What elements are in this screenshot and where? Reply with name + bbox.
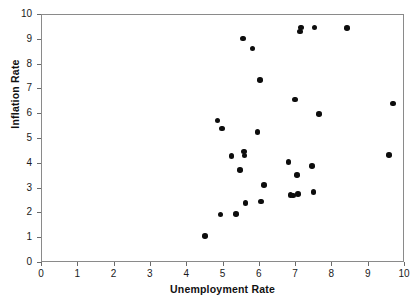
x-tick-mark xyxy=(77,262,78,266)
x-tick-mark xyxy=(114,262,115,266)
data-point xyxy=(255,129,261,135)
data-point xyxy=(386,152,392,158)
y-tick-label: 0 xyxy=(6,257,32,267)
data-point xyxy=(316,111,322,117)
data-point xyxy=(261,182,267,188)
x-tick-label: 5 xyxy=(208,268,238,280)
y-tick-label: 10 xyxy=(6,9,32,19)
x-tick-mark xyxy=(259,262,260,266)
x-tick-label: 2 xyxy=(99,268,129,280)
y-tick-mark xyxy=(37,163,41,164)
data-point xyxy=(237,167,243,173)
data-point xyxy=(240,36,246,42)
data-point xyxy=(233,211,239,217)
x-tick-label: 4 xyxy=(171,268,201,280)
scatter-chart-figure: 012345678910012345678910 Unemployment Ra… xyxy=(0,0,415,301)
x-tick-label: 1 xyxy=(62,268,92,280)
x-tick-mark xyxy=(186,262,187,266)
y-tick-label: 3 xyxy=(6,183,32,193)
x-tick-label: 8 xyxy=(316,268,346,280)
y-tick-mark xyxy=(37,88,41,89)
y-tick-mark xyxy=(37,262,41,263)
y-tick-mark xyxy=(37,188,41,189)
x-tick-mark xyxy=(295,262,296,266)
x-tick-label: 3 xyxy=(135,268,165,280)
data-point xyxy=(229,153,235,159)
data-point xyxy=(202,233,208,239)
data-point xyxy=(257,77,263,83)
x-tick-mark xyxy=(150,262,151,266)
x-tick-label: 0 xyxy=(26,268,56,280)
data-point xyxy=(295,191,301,197)
data-point xyxy=(309,163,315,169)
y-tick-label: 2 xyxy=(6,207,32,217)
y-tick-mark xyxy=(37,237,41,238)
y-axis-label: Inflation Rate xyxy=(9,34,21,154)
y-tick-mark xyxy=(37,138,41,139)
data-point xyxy=(243,200,249,206)
y-tick-label: 4 xyxy=(6,158,32,168)
x-tick-label: 7 xyxy=(280,268,310,280)
x-tick-mark xyxy=(404,262,405,266)
data-point xyxy=(258,199,264,205)
x-tick-mark xyxy=(368,262,369,266)
x-tick-label: 10 xyxy=(389,268,415,280)
x-tick-mark xyxy=(223,262,224,266)
data-point xyxy=(219,126,225,132)
y-tick-mark xyxy=(37,39,41,40)
x-axis-label: Unemployment Rate xyxy=(41,283,404,295)
x-tick-label: 9 xyxy=(353,268,383,280)
data-point xyxy=(344,25,350,31)
y-tick-mark xyxy=(37,113,41,114)
data-point xyxy=(294,172,300,178)
x-tick-mark xyxy=(41,262,42,266)
y-tick-mark xyxy=(37,14,41,15)
x-tick-mark xyxy=(331,262,332,266)
plot-area xyxy=(41,14,404,262)
y-tick-mark xyxy=(37,64,41,65)
y-tick-mark xyxy=(37,212,41,213)
x-tick-label: 6 xyxy=(244,268,274,280)
y-tick-label: 1 xyxy=(6,232,32,242)
